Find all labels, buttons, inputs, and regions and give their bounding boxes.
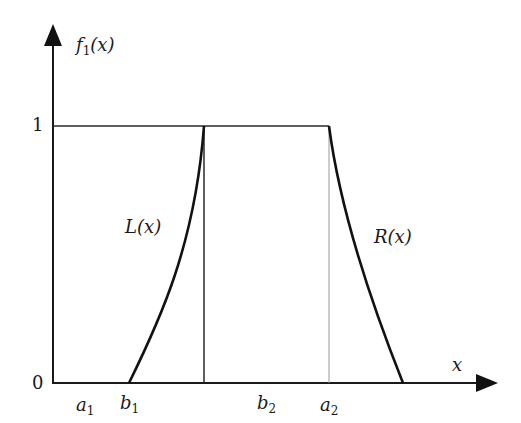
y-axis-label: f1(x)	[76, 36, 115, 57]
x-tick-a1: a1	[76, 396, 94, 417]
x-tick-b1-main: b	[120, 392, 132, 413]
x-tick-a2: a2	[320, 396, 338, 417]
y-axis-arrow-icon	[44, 24, 62, 46]
x-tick-b2-main: b	[257, 392, 269, 413]
y-tick-1: 1	[32, 116, 43, 134]
x-tick-b2: b2	[257, 394, 276, 415]
left-curve-L	[129, 126, 204, 383]
membership-function-diagram	[0, 0, 521, 423]
x-tick-b2-sub: 2	[269, 402, 277, 416]
x-tick-a1-sub: 1	[87, 404, 95, 418]
x-axis-label: x	[452, 356, 462, 374]
y-tick-0: 0	[32, 374, 43, 392]
x-tick-a1-main: a	[76, 394, 87, 415]
x-tick-a2-sub: 2	[331, 404, 339, 418]
x-tick-b1-sub: 1	[132, 402, 140, 416]
x-tick-a2-main: a	[320, 394, 331, 415]
y-axis-label-arg: (x)	[90, 34, 114, 55]
x-axis-arrow-icon	[476, 374, 498, 392]
x-tick-b1: b1	[120, 394, 139, 415]
y-axis-label-main: f	[76, 34, 83, 55]
right-curve-R	[329, 126, 403, 383]
right-curve-label: R(x)	[374, 228, 412, 246]
left-curve-label: L(x)	[125, 218, 161, 236]
